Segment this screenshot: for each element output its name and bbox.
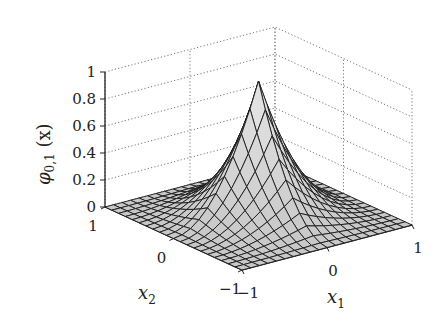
z-tick-label: 0.4 [72,144,96,162]
x2-axis-label: x2 [138,282,156,307]
x1-tick-label: 0 [328,262,338,280]
z-tick-label: 0.2 [72,171,96,189]
z-tick-label: 0.8 [72,90,96,108]
x2-tick-label: 1 [88,217,98,235]
surface-mesh [105,81,412,270]
x2-tick-label: 0 [157,249,167,267]
z-axis-label: φ0,1 (x) [33,123,57,185]
surface-plot: 00.20.40.60.8110−1−101 φ0,1 (x) x2 x1 [0,0,441,320]
x1-tick-label: 1 [413,239,423,257]
z-tick-label: 1 [86,63,96,81]
x1-tick-label: −1 [237,284,259,302]
z-tick-label: 0.6 [72,117,96,135]
z-tick-label: 0 [86,198,96,216]
x1-axis-label: x1 [327,286,345,311]
